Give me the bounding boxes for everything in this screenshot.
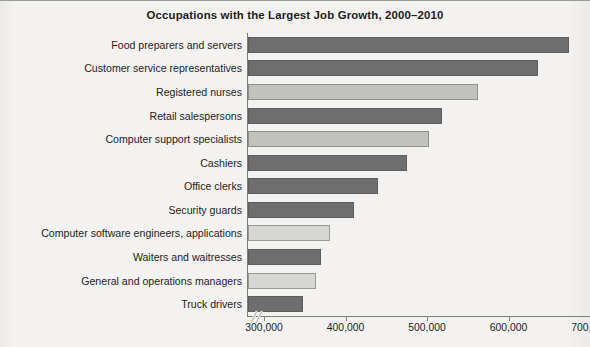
y-axis-label: Cashiers	[200, 157, 242, 169]
y-axis-label: Waiters and waitresses	[133, 251, 242, 263]
bar-fill	[248, 108, 442, 124]
y-axis-label: Customer service representatives	[84, 62, 242, 74]
bar	[248, 273, 316, 289]
bar-fill	[248, 131, 429, 147]
x-axis-tick-label: 400,000	[327, 322, 365, 333]
bar	[248, 37, 569, 53]
y-axis-label: General and operations managers	[81, 275, 242, 287]
x-axis-tick-label: 500,000	[408, 322, 446, 333]
bar	[248, 178, 378, 194]
bar-fill	[248, 273, 316, 289]
chart-title: Occupations with the Largest Job Growth,…	[0, 9, 590, 21]
bar-fill	[248, 296, 303, 312]
bar-fill	[248, 155, 407, 171]
y-axis-label: Registered nurses	[156, 86, 242, 98]
x-axis-tick	[509, 316, 510, 321]
y-axis-label: Food preparers and servers	[111, 39, 242, 51]
bar-fill	[248, 178, 378, 194]
x-axis-line	[247, 316, 590, 317]
bar-fill	[248, 249, 321, 265]
y-axis-label: Retail salespersons	[150, 110, 242, 122]
x-axis-tick-label: 700,000	[571, 322, 590, 333]
y-axis-label: Truck drivers	[181, 298, 242, 310]
y-axis-category-labels: Food preparers and serversCustomer servi…	[0, 33, 242, 316]
bar-fill	[248, 84, 478, 100]
plot-area: 300,000400,000500,000600,000700,000 Educ…	[247, 33, 590, 316]
bar	[248, 202, 354, 218]
bar	[248, 155, 407, 171]
bar-fill	[248, 202, 354, 218]
x-axis-tick	[427, 316, 428, 321]
y-axis-label: Computer support specialists	[105, 133, 242, 145]
y-axis-label: Office clerks	[184, 180, 242, 192]
bar-fill	[248, 225, 330, 241]
bar	[248, 296, 303, 312]
y-axis-label: Security guards	[168, 204, 242, 216]
bar-fill	[248, 60, 538, 76]
chart-figure: Occupations with the Largest Job Growth,…	[0, 0, 590, 347]
bar	[248, 84, 478, 100]
bar	[248, 108, 442, 124]
x-axis-tick-label: 600,000	[490, 322, 528, 333]
y-axis-label: Computer software engineers, application…	[41, 227, 242, 239]
bar	[248, 225, 330, 241]
x-axis-tick	[346, 316, 347, 321]
bar-fill	[248, 37, 569, 53]
bar	[248, 249, 321, 265]
x-axis-tick	[264, 316, 265, 321]
bar	[248, 60, 538, 76]
bar	[248, 131, 429, 147]
x-axis-tick-label: 300,000	[245, 322, 283, 333]
